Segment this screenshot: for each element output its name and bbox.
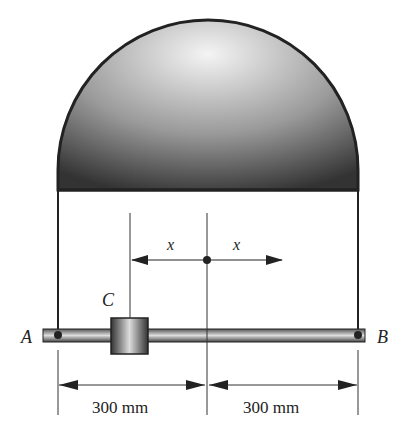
label-x-left: x xyxy=(167,236,174,254)
collar-C xyxy=(111,318,148,354)
dimension-left: 300 mm xyxy=(92,398,148,418)
diagram-canvas xyxy=(0,0,407,434)
label-B: B xyxy=(377,327,388,348)
rod-AB xyxy=(43,329,365,342)
dome-shell xyxy=(58,20,358,335)
dimension-right: 300 mm xyxy=(243,398,299,418)
x-arrows xyxy=(131,255,283,265)
label-x-right: x xyxy=(233,236,240,254)
dimension-arrows xyxy=(59,380,357,390)
label-A: A xyxy=(21,327,32,348)
label-C: C xyxy=(102,290,114,311)
